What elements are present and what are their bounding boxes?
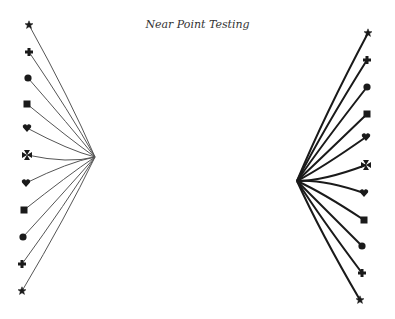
sight-line xyxy=(27,104,95,157)
heart-icon xyxy=(22,179,30,187)
sight-line xyxy=(297,114,367,181)
sight-line xyxy=(24,157,95,210)
sight-line xyxy=(22,157,95,264)
star-icon xyxy=(364,29,372,37)
circle-icon xyxy=(363,83,370,90)
heart-icon xyxy=(23,124,31,132)
star-icon xyxy=(18,287,26,295)
sight-line xyxy=(297,60,367,181)
sight-line xyxy=(297,181,362,273)
circle-icon xyxy=(358,242,365,249)
maltese-cross-icon xyxy=(22,150,32,160)
sight-line xyxy=(27,128,95,157)
maltese-cross-icon xyxy=(361,160,371,170)
sight-line xyxy=(29,52,95,157)
square-icon xyxy=(21,207,28,214)
heart-icon xyxy=(360,189,368,197)
plus-icon xyxy=(25,48,33,56)
star-icon xyxy=(25,21,33,29)
sight-line xyxy=(22,157,95,291)
sight-line xyxy=(23,157,95,237)
circle-icon xyxy=(19,233,26,240)
square-icon xyxy=(364,111,371,118)
plus-icon xyxy=(18,260,26,268)
near-point-diagram xyxy=(0,0,395,319)
square-icon xyxy=(361,217,368,224)
square-icon xyxy=(24,101,31,108)
sight-line xyxy=(26,157,95,183)
sight-line xyxy=(297,181,360,300)
sight-line xyxy=(297,87,367,181)
circle-icon xyxy=(24,74,31,81)
